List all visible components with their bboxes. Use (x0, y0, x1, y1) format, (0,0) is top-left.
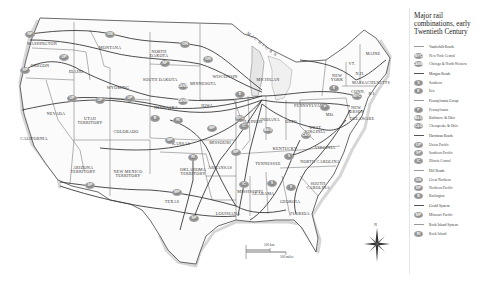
legend-badge-icon: P (414, 107, 423, 113)
state-label: NORTH CAROLINA (300, 160, 340, 164)
state-label: LOUISIANA (216, 212, 241, 216)
legend-title: Major rail combinations, early Twentieth… (414, 12, 473, 36)
railroad-badge: P (320, 104, 330, 111)
legend-badge-icon: UP (414, 142, 423, 148)
legend-item: GNGreat Northern (414, 176, 473, 183)
state-label: UTAH TERRITORY (78, 117, 103, 126)
legend-item-label: Union Pacific (429, 143, 449, 147)
state-label: WISCONSIN (212, 75, 237, 79)
railroad-badge: GN (105, 31, 115, 38)
state-label: KANSAS (172, 142, 190, 146)
railroad-badge: S (286, 184, 296, 191)
state-label: MAINE (366, 52, 381, 56)
legend-group: Pennsylvania Group (414, 97, 473, 104)
legend-item: SSouthern (414, 79, 473, 86)
state-label: SOUTH DAKOTA (143, 78, 178, 82)
state-label: WYOMING (107, 86, 130, 90)
railroad-badge: NYC (352, 93, 362, 100)
legend-badge-icon: RI (414, 231, 423, 237)
railroad-badge: C&NW (178, 83, 188, 90)
legend-group-label: Harriman Roads (429, 134, 453, 138)
legend-line-symbol (414, 205, 424, 206)
legend-item: NYCNew York Central (414, 52, 473, 59)
legend-line-symbol (414, 46, 424, 47)
compass-rose: N (362, 222, 392, 262)
state-label: DELAWARE (350, 117, 374, 121)
legend-badge-icon: C&NW (414, 61, 423, 67)
legend-group-label: Rock Island System (429, 223, 458, 227)
railroad-badge: B&O (263, 127, 273, 134)
railroad-badge: MP (165, 137, 175, 144)
state-label: OHIO (285, 120, 296, 124)
state-label: NEW MEXICO TERRITORY (113, 170, 142, 179)
railroad-badge: E (329, 85, 339, 92)
state-label: VT. (349, 62, 356, 66)
legend-badge-icon: GN (414, 177, 423, 183)
legend-item-label: Southern Pacific (429, 151, 453, 155)
legend-item-label: Chesapeake & Ohio (429, 124, 458, 128)
legend-badge-icon: B (414, 193, 423, 199)
railroad-badge: NP (160, 60, 170, 67)
legend-group: Rock Island System (414, 221, 473, 228)
state-label: OREGON (31, 64, 50, 68)
railroad-badge: RI (173, 117, 183, 124)
state-label: WASHINGTON (27, 42, 57, 46)
railroad-badge: NP (25, 31, 35, 38)
state-label: TEXAS (165, 200, 180, 204)
railroad-badge: SP (189, 215, 199, 222)
legend-group-label: Pennsylvania Group (429, 99, 458, 103)
state-label: NEBRASKA (154, 106, 178, 110)
legend-item-label: Northern Pacific (429, 186, 453, 190)
state-label: FLORIDA (290, 212, 310, 216)
scale-bar: 500 km 500 miles (244, 243, 304, 261)
railroad-badge: MP (207, 125, 217, 132)
legend: Major rail combinations, early Twentieth… (409, 8, 473, 274)
railroad-badge: UP (125, 95, 135, 102)
legend-item: C&OChesapeake & Ohio (414, 122, 473, 129)
railroad-badge: NYC (235, 115, 245, 122)
railroad-badge: MP (172, 189, 182, 196)
legend-badge-icon: NYC (414, 53, 423, 59)
state-label: N.H. (356, 72, 365, 76)
legend-item: C&NWChicago & North Western (414, 60, 473, 67)
legend-group: Harriman Roads (414, 132, 473, 139)
railroad-badge: UP (67, 95, 77, 102)
legend-badge-icon: MP (414, 212, 423, 218)
legend-groups: Vanderbilt RoadsNYCNew York CentralC&NWC… (414, 43, 473, 237)
state-label: MICHIGAN (256, 78, 279, 82)
railroad-badge: S (267, 180, 277, 187)
legend-group: Hill Roads (414, 167, 473, 174)
railroad-badge: MP (231, 149, 241, 156)
legend-item: EErie (414, 87, 473, 94)
legend-item-label: Missouri Pacific (429, 213, 453, 217)
map-graphic (0, 0, 400, 282)
state-label: MD. (326, 113, 334, 117)
legend-item-label: Rock Island (429, 232, 446, 236)
state-label: MISSOURI (209, 141, 231, 145)
legend-badge-icon: B&O (414, 115, 423, 121)
state-label: NEW YORK (331, 74, 344, 83)
railroad-badge: SP (85, 182, 95, 189)
state-label: SOUTH CAROLINA (306, 182, 329, 191)
state-label: ARIZONA TERRITORY (71, 166, 96, 175)
legend-line-symbol (414, 224, 424, 225)
state-label: KENTUCKY (273, 147, 298, 151)
state-label: GEORGIA (280, 200, 300, 204)
legend-badge-icon: S (414, 80, 423, 86)
legend-item-label: Burlington (429, 194, 445, 198)
railroad-badge: E (235, 91, 245, 98)
legend-badge-icon: C&O (414, 123, 423, 129)
scale-mi-label: 500 miles (280, 255, 293, 259)
state-label: NEW JERSEY (348, 106, 364, 115)
legend-group-label: Gould System (429, 204, 449, 208)
legend-line-symbol (414, 170, 424, 171)
legend-item: BBurlington (414, 192, 473, 199)
railroad-badge: UP (59, 54, 69, 61)
legend-item: MPMissouri Pacific (414, 211, 473, 218)
railroad-badge: S (284, 153, 294, 160)
legend-item-label: Southern (429, 81, 442, 85)
state-label: NORTH DAKOTA (150, 50, 169, 59)
state-label: MINNESOTA (190, 82, 216, 86)
legend-item-label: New York Central (429, 54, 455, 58)
state-label: ARKANSAS (208, 166, 232, 170)
